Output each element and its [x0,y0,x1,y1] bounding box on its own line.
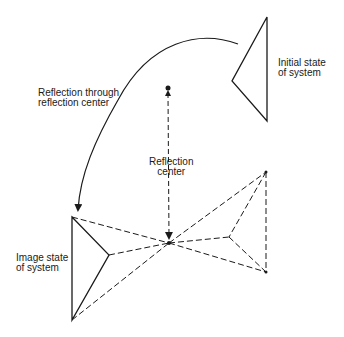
reflection-center-label-line2: center [149,167,193,177]
reflection-center-label: Reflection center [149,157,193,177]
image-state-label: Image state of system [16,253,68,273]
reflection-arc-arrow [78,38,238,210]
dot-arrow-up-icon [165,90,171,96]
reflection-through-label-line2: reflection center [38,98,119,108]
reflection-through-label: Reflection through reflection center [38,88,119,108]
dashed-lines-center-to-projection [169,172,266,272]
vertex-markers [167,171,268,274]
initial-state-triangle [232,17,267,121]
image-state-label-line2: of system [16,263,68,273]
reflection-point-dot [166,86,171,91]
dashed-projection-triangle [229,172,266,272]
image-state-triangle [72,217,109,320]
initial-state-label-line2: of system [278,68,326,78]
initial-state-label: Initial state of system [278,58,326,78]
